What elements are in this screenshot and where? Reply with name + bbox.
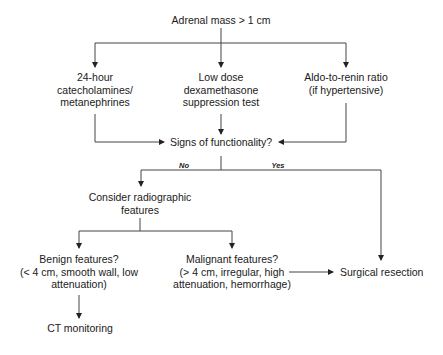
node-text: Signs of functionality? [170, 136, 272, 149]
node-dexamethasone: Low dose dexamethasone suppression test [183, 71, 259, 109]
node-surgical-resection: Surgical resection [340, 266, 423, 279]
node-text: attenuation) [20, 278, 138, 291]
node-text: Surgical resection [340, 266, 423, 279]
edge-label-yes: Yes [271, 161, 284, 170]
node-text: Benign features? [20, 253, 138, 266]
node-text: metanephrines [57, 96, 133, 109]
node-text: CT monitoring [47, 322, 113, 335]
node-text: Malignant features? [173, 253, 291, 266]
node-text: (< 4 cm, smooth wall, low [20, 266, 138, 279]
node-text: features [89, 204, 192, 217]
node-text: Aldo-to-renin ratio [304, 71, 387, 84]
node-text: suppression test [183, 96, 259, 109]
node-malignant-features: Malignant features? (> 4 cm, irregular, … [173, 253, 291, 291]
node-text: (> 4 cm, irregular, high [173, 266, 291, 279]
node-radiographic-features: Consider radiographic features [89, 191, 192, 216]
node-text: dexamethasone [183, 84, 259, 97]
node-text: catecholamines/ [57, 84, 133, 97]
node-text: 24-hour [57, 71, 133, 84]
node-aldo-renin: Aldo-to-renin ratio (if hypertensive) [304, 71, 387, 96]
node-text: (if hypertensive) [304, 84, 387, 97]
node-text: attenuation, hemorrhage) [173, 278, 291, 291]
node-benign-features: Benign features? (< 4 cm, smooth wall, l… [20, 253, 138, 291]
flowchart-canvas: Adrenal mass > 1 cm 24-hour catecholamin… [0, 0, 443, 355]
node-signs-of-functionality: Signs of functionality? [170, 136, 272, 149]
node-text: Adrenal mass > 1 cm [172, 14, 271, 27]
edge-label-no: No [179, 161, 189, 170]
node-catecholamines: 24-hour catecholamines/ metanephrines [57, 71, 133, 109]
node-text: Consider radiographic [89, 191, 192, 204]
node-adrenal-mass: Adrenal mass > 1 cm [172, 14, 271, 27]
node-text: Low dose [183, 71, 259, 84]
connector-lines [0, 0, 443, 355]
node-ct-monitoring: CT monitoring [47, 322, 113, 335]
